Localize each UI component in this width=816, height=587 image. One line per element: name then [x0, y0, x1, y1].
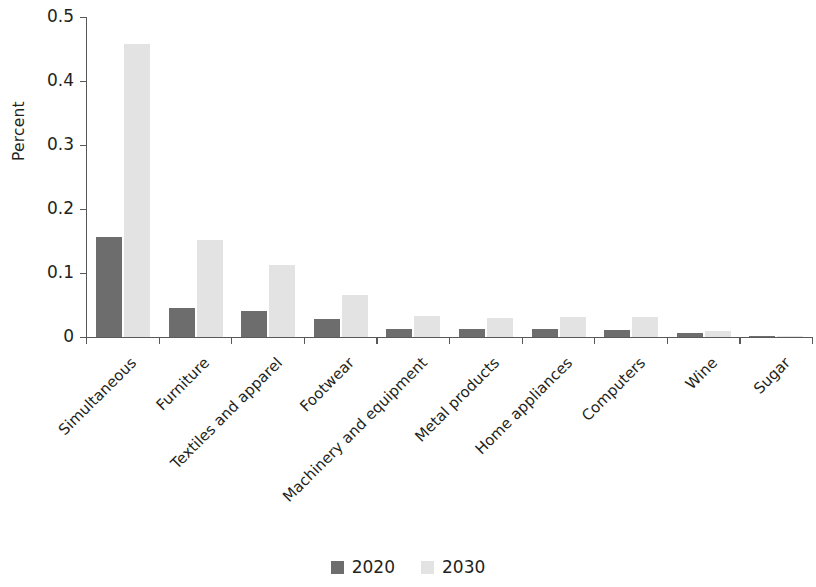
- x-tick-mark: [594, 337, 595, 344]
- bar-2020-simultaneous: [96, 237, 122, 337]
- legend-entry-2030: 2030: [421, 559, 485, 576]
- y-tick-label: 0.2: [28, 200, 74, 217]
- y-tick-label: 0: [28, 328, 74, 345]
- bar-2030-simultaneous: [124, 44, 150, 337]
- y-axis-title: Percent: [10, 76, 28, 186]
- bar-2030-textiles-and-apparel: [269, 265, 295, 337]
- legend-label: 2020: [352, 559, 395, 576]
- y-tick-label: 0.5: [28, 8, 74, 25]
- bar-2020-furniture: [169, 308, 195, 337]
- x-tick-mark: [522, 337, 523, 344]
- chart-legend: 20202030: [0, 559, 816, 576]
- bar-2020-home-appliances: [532, 329, 558, 337]
- x-tick-mark: [86, 337, 87, 344]
- bar-2030-metal-products: [487, 318, 513, 337]
- x-tick-mark: [376, 337, 377, 344]
- bar-2030-furniture: [197, 240, 223, 337]
- bar-2020-footwear: [314, 319, 340, 337]
- x-tick-mark: [667, 337, 668, 344]
- x-tick-mark: [812, 337, 813, 344]
- bar-2020-textiles-and-apparel: [241, 311, 267, 337]
- x-category-label: Sugar: [358, 355, 793, 587]
- x-category-label: Wine: [286, 355, 721, 587]
- legend-label: 2030: [442, 559, 485, 576]
- bar-2030-home-appliances: [560, 317, 586, 337]
- x-category-label: Metal products: [68, 355, 503, 587]
- x-tick-mark: [449, 337, 450, 344]
- legend-swatch-icon: [421, 561, 434, 574]
- legend-swatch-icon: [331, 561, 344, 574]
- x-category-label: Home appliances: [140, 355, 575, 587]
- y-tick-label: 0.4: [28, 72, 74, 89]
- legend-entry-2020: 2020: [331, 559, 395, 576]
- x-category-label: Machinery and equipment: [0, 355, 430, 587]
- bar-2020-machinery-and-equipment: [386, 329, 412, 337]
- x-tick-mark: [304, 337, 305, 344]
- x-tick-mark: [159, 337, 160, 344]
- x-tick-mark: [231, 337, 232, 344]
- bar-2020-computers: [604, 330, 630, 337]
- bar-2030-machinery-and-equipment: [414, 316, 440, 337]
- bar-2030-computers: [632, 317, 658, 337]
- x-tick-mark: [739, 337, 740, 344]
- bar-2020-metal-products: [459, 329, 485, 337]
- x-category-label: Computers: [213, 355, 648, 587]
- y-tick-label: 0.1: [28, 264, 74, 281]
- y-tick-label: 0.3: [28, 136, 74, 153]
- bar-chart-figure: Percent 00.10.20.30.40.5 SimultaneousFur…: [0, 0, 816, 587]
- bar-2030-footwear: [342, 295, 368, 337]
- plot-area: [86, 17, 812, 337]
